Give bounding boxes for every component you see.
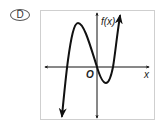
x-axis-label: x bbox=[144, 70, 149, 80]
y-axis-label: f(x) bbox=[101, 17, 115, 27]
function-graph bbox=[0, 0, 161, 124]
origin-label: O bbox=[86, 70, 94, 80]
cubic-curve bbox=[62, 16, 120, 116]
